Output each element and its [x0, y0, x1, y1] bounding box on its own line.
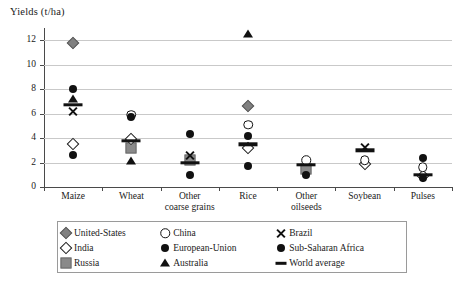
legend-label: World average — [289, 258, 344, 268]
x-tick-label: Othercoarse grains — [161, 191, 219, 212]
y-tick — [40, 40, 44, 41]
data-point-circle-filled — [69, 85, 77, 93]
y-tick — [40, 89, 44, 90]
data-point-bar — [413, 173, 432, 176]
data-point-circle-filled — [127, 113, 135, 121]
x-tick — [452, 187, 453, 191]
plot-area — [44, 28, 452, 187]
diamond-filled-icon — [58, 227, 74, 238]
chart-root: Yields (t/ha) 024681012 MaizeWheatOtherc… — [0, 0, 462, 282]
data-point-bar — [355, 149, 374, 152]
legend-row: RussiaAustraliaWorld average — [58, 255, 406, 270]
x-icon — [273, 227, 289, 238]
data-point-circle-filled — [186, 130, 194, 138]
data-point-triangle — [68, 95, 78, 103]
diamond-open-icon — [58, 242, 74, 253]
legend-marker — [60, 242, 73, 255]
data-point-circle-ssa — [186, 171, 194, 179]
x-tick-label: Maize — [44, 191, 102, 202]
legend-item[interactable]: Sub-Saharan Africa — [273, 240, 406, 255]
data-point-triangle — [243, 30, 253, 38]
data-point-bar — [239, 142, 258, 145]
x-tick-label: Otheroilseeds — [277, 191, 335, 212]
data-point-circle-ssa — [244, 162, 252, 170]
circle-ssa-icon — [273, 242, 289, 253]
data-point-bar — [64, 103, 83, 106]
y-tick — [40, 163, 44, 164]
legend-label: Russia — [74, 258, 99, 268]
legend-label: Brazil — [289, 228, 312, 238]
legend-item[interactable]: Australia — [157, 255, 273, 270]
legend-marker — [276, 262, 287, 264]
data-point-circle-filled — [419, 154, 427, 162]
chart-legend: United-StatesChinaBrazilIndiaEuropean-Un… — [57, 221, 407, 273]
legend-marker — [161, 244, 169, 252]
gridline — [44, 89, 452, 90]
bar-icon — [273, 257, 289, 268]
x-tick-label: Wheat — [102, 191, 160, 202]
x-tick-label-line: coarse grains — [161, 202, 219, 213]
legend-label: Australia — [173, 258, 208, 268]
gridline — [44, 114, 452, 115]
legend-row: United-StatesChinaBrazil — [58, 225, 406, 240]
legend-label: China — [173, 228, 196, 238]
data-point-bar — [122, 139, 141, 142]
data-point-x — [184, 150, 195, 161]
y-tick-label: 8 — [10, 84, 36, 93]
legend-item[interactable]: India — [58, 240, 157, 255]
legend-marker — [276, 228, 287, 239]
triangle-icon — [157, 257, 173, 268]
legend-table: United-StatesChinaBrazilIndiaEuropean-Un… — [58, 225, 406, 270]
x-tick-label-line: Rice — [219, 191, 277, 202]
data-point-bar — [180, 161, 199, 164]
x-tick-label: Soybean — [335, 191, 393, 202]
data-point-circle-open — [418, 163, 428, 173]
data-point-circle-filled — [244, 132, 252, 140]
y-tick-label: 0 — [10, 182, 36, 191]
legend-item[interactable]: Russia — [58, 255, 157, 270]
gridline — [44, 65, 452, 66]
x-tick-label-line: Pulses — [394, 191, 452, 202]
data-point-circle-open — [243, 120, 253, 130]
x-tick-label: Rice — [219, 191, 277, 202]
data-point-x — [68, 106, 79, 117]
legend-item[interactable]: United-States — [58, 225, 157, 240]
y-tick-label: 12 — [10, 35, 36, 44]
legend-label: United-States — [74, 228, 126, 238]
legend-label: India — [74, 243, 94, 253]
data-point-diamond-filled — [242, 100, 255, 113]
legend-item[interactable]: China — [157, 225, 273, 240]
y-tick-label: 2 — [10, 158, 36, 167]
y-tick — [40, 138, 44, 139]
y-tick-label: 10 — [10, 60, 36, 69]
y-tick — [40, 114, 44, 115]
circle-open-icon — [157, 227, 173, 238]
x-tick-label-line: Wheat — [102, 191, 160, 202]
legend-item[interactable]: European-Union — [157, 240, 273, 255]
y-tick-label: 6 — [10, 109, 36, 118]
legend-label: European-Union — [173, 243, 236, 253]
data-point-circle-open — [360, 155, 370, 165]
x-tick-label-line: Other — [277, 191, 335, 202]
legend-marker — [61, 258, 72, 269]
legend-marker — [277, 244, 285, 252]
legend-label: Sub-Saharan Africa — [289, 243, 364, 253]
legend-marker — [160, 228, 170, 238]
legend-item[interactable]: World average — [273, 255, 406, 270]
data-point-circle-ssa — [302, 171, 310, 179]
square-icon — [58, 257, 74, 268]
x-tick-label-line: Soybean — [335, 191, 393, 202]
x-tick-label-line: Maize — [44, 191, 102, 202]
gridline — [44, 187, 452, 188]
legend-row: IndiaEuropean-UnionSub-Saharan Africa — [58, 240, 406, 255]
data-point-bar — [297, 163, 316, 166]
legend-marker — [160, 259, 170, 267]
data-point-circle-ssa — [69, 151, 77, 159]
gridline — [44, 40, 452, 41]
legend-marker — [60, 227, 73, 240]
y-axis-title: Yields (t/ha) — [10, 6, 65, 17]
legend-item[interactable]: Brazil — [273, 225, 406, 240]
y-tick-label: 4 — [10, 133, 36, 142]
data-point-diamond-open — [67, 138, 80, 151]
data-point-triangle — [126, 157, 136, 165]
